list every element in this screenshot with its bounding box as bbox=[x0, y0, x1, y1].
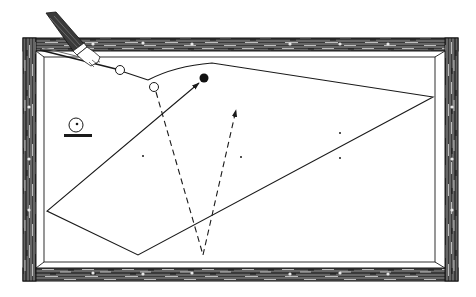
bottom-rail bbox=[23, 268, 458, 281]
second-white-ball bbox=[150, 83, 159, 92]
cue-ball bbox=[116, 66, 125, 75]
red-object-ball bbox=[200, 74, 209, 83]
diagram-canvas bbox=[0, 0, 476, 297]
billiard-diagram: Billiard shot diagram bbox=[0, 0, 476, 297]
